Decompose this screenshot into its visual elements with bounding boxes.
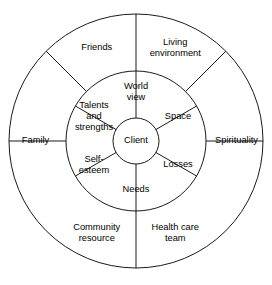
inner-ring-label-1-line-0: Space <box>165 111 191 121</box>
wheel-diagram-canvas: LivingenvironmentSpiritualityHealth care… <box>0 0 272 285</box>
outer-ring-label-2: Health careteam <box>151 222 199 243</box>
inner-ring-label-5-line-2: strengths <box>75 122 114 132</box>
outer-ring-label-4: Family <box>22 135 50 145</box>
outer-ring-label-0-line-1: environment <box>150 48 202 58</box>
outer-ring-label-1: Spirituality <box>215 135 258 145</box>
center-label: Client <box>124 135 148 145</box>
inner-ring-label-5-line-0: Talents <box>79 100 109 110</box>
outer-ring-label-2-line-0: Health care <box>151 222 199 232</box>
outer-ring-label-5: Friends <box>81 43 112 53</box>
inner-ring-label-4: Self-esteem <box>79 154 110 175</box>
inner-ring-label-0-line-0: World <box>124 81 148 91</box>
outer-ring-label-0-line-0: Living <box>163 37 187 47</box>
outer-ring-label-0: Livingenvironment <box>150 37 202 58</box>
outer-ring-label-2-line-1: team <box>165 233 186 243</box>
inner-ring-label-3: Needs <box>123 184 150 194</box>
outer-ring-label-5-line-0: Friends <box>81 43 112 53</box>
outer-ring-label-1-line-0: Spirituality <box>215 135 258 145</box>
inner-ring-label-3-line-0: Needs <box>123 184 150 194</box>
inner-ring-label-0: Worldview <box>124 81 148 102</box>
inner-ring-label-2: Losses <box>163 160 193 170</box>
inner-ring-label-4-line-0: Self- <box>84 154 103 164</box>
inner-ring-label-5-line-1: and <box>86 111 102 121</box>
inner-ring-label-4-line-1: esteem <box>79 165 110 175</box>
inner-ring-label-0-line-1: view <box>127 92 146 102</box>
inner-ring-label-5: Talentsandstrengths <box>75 100 114 132</box>
inner-ring-label-2-line-0: Losses <box>163 160 193 170</box>
inner-ring-label-1: Space <box>165 111 191 121</box>
outer-spoke-3 <box>46 51 86 91</box>
client-wheel-diagram: LivingenvironmentSpiritualityHealth care… <box>0 0 272 285</box>
outer-ring-label-3-line-0: Community <box>73 222 120 232</box>
outer-ring-label-3: Communityresource <box>73 222 120 243</box>
outer-ring-label-4-line-0: Family <box>22 135 50 145</box>
outer-ring-label-3-line-1: resource <box>79 233 115 243</box>
